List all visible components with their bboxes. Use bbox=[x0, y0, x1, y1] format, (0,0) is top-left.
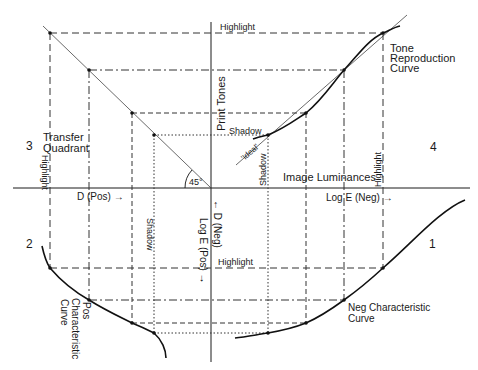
quadrant-number-2: 2 bbox=[26, 237, 33, 251]
transfer-quadrant-line2: Quadrant bbox=[43, 142, 89, 154]
shadow-vertical-q4: Shadow bbox=[258, 153, 268, 186]
neg-characteristic-line2: Curve bbox=[348, 313, 375, 324]
tone-reproduction-line3: Curve bbox=[390, 62, 419, 74]
image-luminances-label: Image Luminances bbox=[283, 171, 376, 183]
neg-characteristic-line1: Neg Characteristic bbox=[348, 302, 430, 313]
pos-characteristic-line2: Characteristic bbox=[70, 298, 81, 359]
highlight-vertical-q3: Highlight bbox=[40, 155, 50, 191]
tone-reproduction-diagram: 45° 3 4 2 1 Highlight Tone Reproduction … bbox=[0, 0, 478, 370]
shadow-top-label: Shadow bbox=[229, 126, 262, 136]
pos-characteristic-line1: Pos bbox=[81, 302, 92, 319]
highlight-bottom-label: Highlight bbox=[218, 257, 254, 267]
log-e-neg-label: Log E (Neg) → bbox=[326, 192, 393, 203]
highlight-vertical-q4: Highlight bbox=[373, 151, 383, 187]
quadrant-number-3: 3 bbox=[26, 139, 33, 153]
d-neg-label: ← D (Neg) bbox=[212, 200, 223, 248]
ideal-line bbox=[236, 15, 407, 165]
log-e-pos-label: Log E (Pos) → bbox=[198, 218, 209, 284]
shadow-vertical-q2: Shadow bbox=[145, 218, 155, 251]
highlight-top-label: Highlight bbox=[220, 22, 256, 32]
transfer-diagonal bbox=[43, 26, 211, 188]
tone-reproduction-curve bbox=[253, 26, 400, 139]
print-tones-label: Print Tones bbox=[215, 76, 227, 131]
quadrant-number-1: 1 bbox=[429, 237, 436, 251]
pos-characteristic-line3: Curve bbox=[59, 299, 70, 326]
angle-label: 45° bbox=[189, 177, 203, 187]
d-pos-label: D (Pos) → bbox=[77, 191, 124, 202]
quadrant-number-4: 4 bbox=[430, 140, 437, 154]
